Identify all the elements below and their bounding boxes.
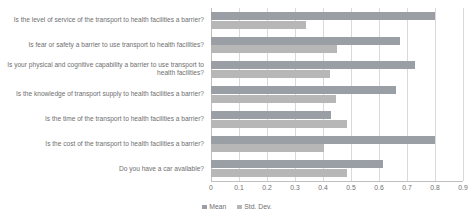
bar-std-dev — [211, 70, 330, 78]
x-tick-label: 0.2 — [252, 183, 282, 193]
category-label: Do you have a car available? — [4, 164, 204, 173]
category-row: Do you have a car available? — [0, 156, 474, 181]
bar-mean — [211, 86, 396, 94]
bar-mean — [211, 37, 400, 45]
category-row: Is fear or safety a barrier to use trans… — [0, 33, 474, 58]
bar-group — [211, 8, 474, 33]
category-label: Is the knowledge of transport supply to … — [4, 90, 204, 99]
chart-legend: MeanStd. Dev. — [0, 203, 474, 211]
bar-group — [211, 57, 474, 82]
x-tick-label: 0.1 — [224, 183, 254, 193]
bar-group — [211, 132, 474, 157]
bar-mean — [211, 136, 435, 144]
bar-mean — [211, 12, 435, 20]
category-label: Is the cost of the transport to health f… — [4, 140, 204, 149]
category-row: Is your physical and cognitive capabilit… — [0, 57, 474, 82]
legend-item[interactable]: Mean — [202, 203, 226, 211]
bar-group — [211, 156, 474, 181]
bar-std-dev — [211, 21, 306, 29]
x-tick-label: 0.7 — [392, 183, 422, 193]
category-row: Is the knowledge of transport supply to … — [0, 82, 474, 107]
bar-mean — [211, 160, 383, 168]
bar-std-dev — [211, 120, 347, 128]
bar-mean — [211, 61, 415, 69]
x-tick-label: 0.3 — [280, 183, 310, 193]
bar-std-dev — [211, 169, 347, 177]
x-tick-label: 0.4 — [308, 183, 338, 193]
bar-mean — [211, 111, 331, 119]
category-label: Is fear or safety a barrier to use trans… — [4, 41, 204, 50]
category-row: Is the cost of the transport to health f… — [0, 132, 474, 157]
x-tick-label: 0.9 — [448, 183, 474, 193]
category-label: Is your physical and cognitive capabilit… — [4, 61, 204, 78]
x-tick-label: 0.6 — [364, 183, 394, 193]
x-tick-label: 0.8 — [420, 183, 450, 193]
x-tick-label: 0.5 — [336, 183, 366, 193]
x-tick-label: 0 — [196, 183, 226, 193]
grouped-bar-chart: Is the level of service of the transport… — [0, 0, 474, 223]
category-row: Is the level of service of the transport… — [0, 8, 474, 33]
bar-group — [211, 107, 474, 132]
category-label: Is the time of the transport to health f… — [4, 115, 204, 124]
bar-group — [211, 82, 474, 107]
legend-swatch-icon — [202, 205, 207, 210]
category-rows: Is the level of service of the transport… — [0, 8, 474, 181]
bar-group — [211, 33, 474, 58]
category-row: Is the time of the transport to health f… — [0, 107, 474, 132]
bar-std-dev — [211, 144, 324, 152]
bar-std-dev — [211, 95, 336, 103]
x-axis-tick-labels: 00.10.20.30.40.50.60.70.80.9 — [0, 183, 474, 195]
category-label: Is the level of service of the transport… — [4, 16, 204, 25]
x-axis-line — [211, 181, 463, 182]
legend-label: Mean — [209, 203, 226, 211]
legend-label: Std. Dev. — [244, 203, 271, 211]
legend-swatch-icon — [237, 205, 242, 210]
legend-item[interactable]: Std. Dev. — [237, 203, 271, 211]
bar-std-dev — [211, 45, 337, 53]
